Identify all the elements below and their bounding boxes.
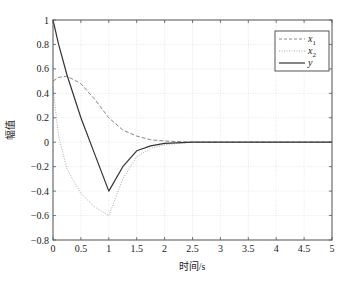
legend: x1 x2 y	[275, 31, 329, 71]
x-axis-label: 时间/s	[179, 260, 206, 272]
y-tick-label: 0.2	[37, 112, 50, 123]
y-tick-label: −0.8	[31, 235, 49, 246]
x-tick-label: 4.5	[298, 243, 311, 254]
y-tick-label: 1	[44, 15, 49, 26]
line-chart: 00.511.522.533.544.55−0.8−0.6−0.4−0.200.…	[0, 0, 347, 282]
y-tick-label: 0.6	[37, 63, 50, 74]
y-tick-label: −0.4	[31, 186, 49, 197]
x-tick-label: 4	[274, 243, 279, 254]
legend-y-label: y	[307, 57, 313, 68]
x-tick-label: 5	[330, 243, 335, 254]
series-x1-line	[53, 76, 332, 142]
y-tick-label: 0	[44, 137, 49, 148]
x-tick-label: 3	[218, 243, 223, 254]
y-tick-label: 0.4	[37, 88, 50, 99]
series-x2-line	[53, 87, 332, 215]
y-axis-label: 幅值	[4, 120, 16, 140]
x-tick-label: 2	[162, 243, 167, 254]
x-tick-label: 3.5	[242, 243, 255, 254]
x-tick-label: 0	[51, 243, 56, 254]
x-tick-label: 0.5	[75, 243, 88, 254]
x-tick-label: 1.5	[130, 243, 143, 254]
x-tick-label: 2.5	[186, 243, 199, 254]
y-tick-label: −0.2	[31, 161, 49, 172]
y-tick-label: −0.6	[31, 210, 49, 221]
x-tick-label: 1	[106, 243, 111, 254]
y-tick-label: 0.8	[37, 39, 50, 50]
